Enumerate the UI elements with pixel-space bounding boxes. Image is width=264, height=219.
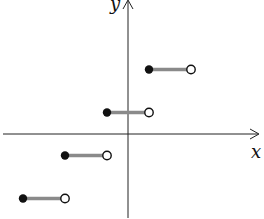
closed-endpoint-icon [145,65,153,73]
step-function-chart: x y [0,0,264,219]
open-endpoint-icon [145,108,153,116]
open-endpoint-icon [103,151,111,159]
closed-endpoint-icon [19,194,27,202]
open-endpoint-icon [61,194,69,202]
y-axis-label: y [109,0,121,14]
closed-endpoint-icon [61,151,69,159]
open-endpoint-icon [187,65,195,73]
x-axis-label: x [251,141,261,162]
closed-endpoint-icon [103,108,111,116]
